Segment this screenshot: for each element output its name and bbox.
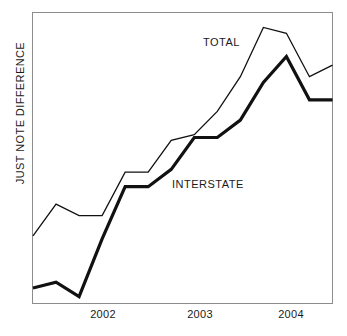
y-axis-label: JUST NOTE DIFFERENCE: [14, 13, 26, 213]
x-tick-label-2003: 2003: [170, 308, 230, 320]
series-label-total: TOTAL: [203, 36, 240, 48]
series-label-interstate: INTERSTATE: [172, 178, 244, 190]
x-tick-label-2004: 2004: [261, 308, 321, 320]
line-chart-plot: [0, 0, 347, 336]
x-tick-label-2002: 2002: [73, 308, 133, 320]
chart-figure: JUST NOTE DIFFERENCE 2002 2003 2004 TOTA…: [0, 0, 347, 336]
